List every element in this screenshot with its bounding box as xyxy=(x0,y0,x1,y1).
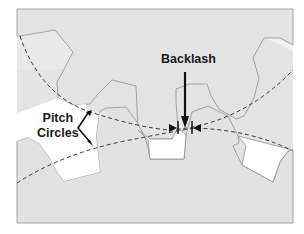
backlash-label: Backlash xyxy=(161,52,216,67)
pitch-label-line2: Circles xyxy=(37,126,79,141)
pitch-label-line1: Pitch xyxy=(37,111,79,126)
pitch-circles-label: Pitch Circles xyxy=(37,111,79,141)
